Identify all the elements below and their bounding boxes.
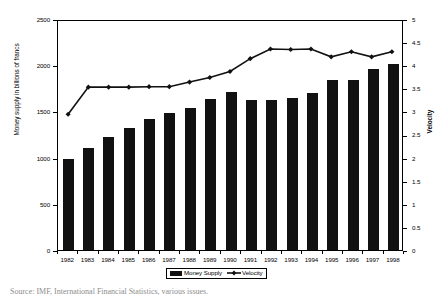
y2-tick-label: 0 xyxy=(412,248,415,254)
velocity-marker xyxy=(167,84,172,89)
bar-swatch-icon xyxy=(170,271,182,276)
x-tick-mark xyxy=(57,251,58,254)
y2-tick-mark xyxy=(403,205,407,206)
y2-axis-title: Velocity xyxy=(426,92,433,152)
y2-tick-label: 4 xyxy=(412,63,415,69)
y2-tick-label: 2 xyxy=(412,156,415,162)
y-tick-label: 1500 xyxy=(16,109,50,115)
x-tick-mark xyxy=(322,251,323,254)
velocity-marker xyxy=(146,84,151,89)
y-tick-mark xyxy=(53,112,57,113)
y2-tick-label: 3 xyxy=(412,109,415,115)
velocity-marker xyxy=(389,49,394,54)
y2-tick-mark xyxy=(403,66,407,67)
line-marker-swatch-icon xyxy=(227,270,241,276)
y-tick-label: 1000 xyxy=(16,156,50,162)
y2-tick-label: 1.5 xyxy=(412,179,420,185)
velocity-marker xyxy=(187,80,192,85)
x-tick-mark xyxy=(159,251,160,254)
velocity-marker xyxy=(207,75,212,80)
velocity-marker xyxy=(126,85,131,90)
y2-tick-mark xyxy=(403,159,407,160)
y2-tick-mark xyxy=(403,136,407,137)
y-tick-mark xyxy=(53,20,57,21)
y-tick-label: 2000 xyxy=(16,63,50,69)
y2-tick-label: 2.5 xyxy=(412,132,420,138)
y2-tick-label: 3.5 xyxy=(412,86,420,92)
x-tick-mark xyxy=(383,251,384,254)
chart-figure: Money supply in billions of francs Veloc… xyxy=(0,0,443,296)
velocity-line xyxy=(68,49,392,114)
y2-tick-mark xyxy=(403,182,407,183)
x-tick-label: 1998 xyxy=(381,256,405,263)
y-tick-mark xyxy=(53,66,57,67)
x-tick-mark xyxy=(179,251,180,254)
x-tick-mark xyxy=(98,251,99,254)
velocity-marker xyxy=(308,46,313,51)
y2-tick-label: 4.5 xyxy=(412,40,420,46)
x-tick-mark xyxy=(240,251,241,254)
velocity-marker xyxy=(106,85,111,90)
velocity-marker xyxy=(349,49,354,54)
velocity-marker xyxy=(329,54,334,59)
x-tick-mark xyxy=(199,251,200,254)
legend-item-money-supply: Money Supply xyxy=(170,270,222,276)
y-axis-title: Money supply in billions of francs xyxy=(13,30,20,150)
x-tick-mark xyxy=(362,251,363,254)
line-series-velocity xyxy=(58,21,402,251)
y-tick-mark xyxy=(53,205,57,206)
y2-tick-mark xyxy=(403,20,407,21)
legend-label-money-supply: Money Supply xyxy=(184,270,222,276)
y-tick-mark xyxy=(53,159,57,160)
x-tick-mark xyxy=(281,251,282,254)
y2-tick-mark xyxy=(403,43,407,44)
x-tick-mark xyxy=(261,251,262,254)
plot-area xyxy=(57,20,403,251)
legend-item-velocity: Velocity xyxy=(227,270,263,276)
y2-tick-mark xyxy=(403,228,407,229)
x-tick-mark xyxy=(220,251,221,254)
y-tick-label: 2500 xyxy=(16,17,50,23)
y-tick-label: 0 xyxy=(16,248,50,254)
y-tick-label: 500 xyxy=(16,202,50,208)
y2-tick-label: 1 xyxy=(412,202,415,208)
x-tick-mark xyxy=(118,251,119,254)
x-tick-mark xyxy=(342,251,343,254)
x-tick-mark xyxy=(138,251,139,254)
y2-tick-label: 0.5 xyxy=(412,225,420,231)
chart-legend: Money Supply Velocity xyxy=(166,268,267,279)
x-tick-mark xyxy=(77,251,78,254)
y2-tick-mark xyxy=(403,89,407,90)
y2-tick-label: 5 xyxy=(412,17,415,23)
x-tick-mark xyxy=(301,251,302,254)
x-tick-mark xyxy=(403,251,404,254)
source-caption: Source: IMF, International Financial Sta… xyxy=(10,287,208,296)
y2-tick-mark xyxy=(403,112,407,113)
legend-label-velocity: Velocity xyxy=(242,270,263,276)
velocity-marker xyxy=(268,46,273,51)
velocity-marker xyxy=(288,47,293,52)
velocity-marker xyxy=(369,54,374,59)
